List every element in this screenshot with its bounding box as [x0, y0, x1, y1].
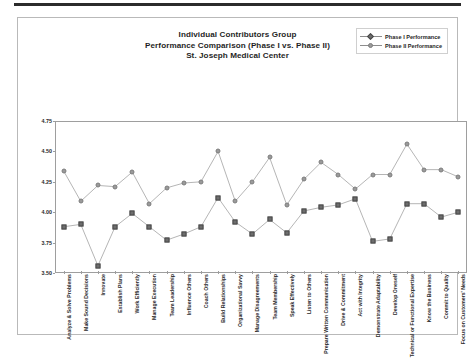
- data-point-marker: [336, 202, 341, 207]
- x-axis-labels: Analyze & Solve ProblemsMake Sound Decis…: [55, 274, 467, 350]
- page-bottom-ghost-text: [24, 344, 454, 358]
- x-axis-tick-mark: [218, 271, 219, 274]
- x-axis-tick-label: Develop Oneself: [392, 274, 398, 315]
- data-point-marker: [301, 177, 306, 182]
- legend-item-phase-ii[interactable]: Phase II Performance: [360, 41, 442, 50]
- x-axis-tick-mark: [132, 271, 133, 274]
- data-point-marker: [130, 170, 135, 175]
- x-axis-tick-label: Listen to Others: [306, 274, 312, 314]
- x-axis-tick-mark: [235, 271, 236, 274]
- legend-label-phase-ii: Phase II Performance: [382, 43, 442, 49]
- x-axis-tick-label: Manage Disagreements: [254, 274, 260, 332]
- data-point-marker: [198, 179, 203, 184]
- x-axis-tick-mark: [355, 271, 356, 274]
- data-point-marker: [250, 179, 255, 184]
- x-axis-tick-mark: [441, 271, 442, 274]
- x-axis-tick-mark: [304, 271, 305, 274]
- y-axis-tick-label: 4.75: [42, 118, 53, 124]
- x-axis-tick-label: Coach Others: [203, 274, 209, 308]
- y-axis-tick-label: 3.75: [42, 240, 53, 246]
- x-axis-tick-label: Make Sound Decisions: [83, 274, 89, 331]
- data-point-marker: [422, 167, 427, 172]
- x-axis-tick-mark: [373, 271, 374, 274]
- x-axis-tick-mark: [201, 271, 202, 274]
- data-point-marker: [439, 215, 444, 220]
- x-axis-tick-mark: [149, 271, 150, 274]
- data-point-marker: [353, 196, 358, 201]
- data-point-marker: [319, 205, 324, 210]
- data-point-marker: [181, 181, 186, 186]
- legend-label-phase-i: Phase I Performance: [382, 34, 440, 40]
- data-point-marker: [439, 167, 444, 172]
- data-point-marker: [130, 211, 135, 216]
- x-axis-tick-label: Demonstrate Adaptability: [375, 274, 381, 337]
- x-axis-tick-label: Act with Integrity: [357, 274, 363, 316]
- data-point-marker: [456, 174, 461, 179]
- data-point-marker: [61, 168, 66, 173]
- x-axis-tick-mark: [424, 271, 425, 274]
- x-axis-tick-label: Manage Execution: [151, 274, 157, 320]
- x-axis-tick-mark: [407, 271, 408, 274]
- data-point-marker: [233, 199, 238, 204]
- data-point-marker: [267, 155, 272, 160]
- plot-area: 4.754.504.254.003.753.50: [55, 121, 467, 273]
- data-point-marker: [422, 201, 427, 206]
- x-axis-tick-label: Organizational Savvy: [237, 274, 243, 327]
- x-axis-tick-label: Team Membership: [272, 274, 278, 319]
- x-axis-tick-label: Speak Effectively: [289, 274, 295, 317]
- y-axis-tick-label: 4.00: [42, 209, 53, 215]
- data-point-marker: [301, 208, 306, 213]
- data-point-marker: [147, 201, 152, 206]
- data-point-marker: [147, 224, 152, 229]
- x-axis-tick-label: Innovate: [100, 274, 106, 296]
- legend-marker-diamond-icon: [360, 32, 382, 41]
- data-point-marker: [250, 232, 255, 237]
- data-point-marker: [78, 222, 83, 227]
- data-point-marker: [164, 185, 169, 190]
- x-axis-tick-mark: [184, 271, 185, 274]
- data-point-marker: [216, 149, 221, 154]
- legend-item-phase-i[interactable]: Phase I Performance: [360, 32, 442, 41]
- x-axis-tick-label: Commit to Quality: [443, 274, 449, 319]
- data-point-marker: [95, 183, 100, 188]
- chart-frame: Individual Contributors Group Performanc…: [17, 17, 458, 335]
- x-axis-tick-label: Work Efficiently: [134, 274, 140, 313]
- x-axis-tick-mark: [338, 271, 339, 274]
- chart-legend: Phase I Performance Phase II Performance: [356, 28, 448, 54]
- x-axis-tick-label: Prepare Written Communication: [323, 274, 329, 354]
- data-point-marker: [198, 224, 203, 229]
- y-axis-tick-label: 4.25: [42, 179, 53, 185]
- data-point-marker: [113, 224, 118, 229]
- data-point-marker: [284, 202, 289, 207]
- data-point-marker: [113, 184, 118, 189]
- series-line: [64, 144, 459, 205]
- series-line: [64, 198, 459, 266]
- data-point-marker: [336, 172, 341, 177]
- x-axis-tick-label: Establish Plans: [117, 274, 123, 313]
- y-axis-tick-label: 4.50: [42, 148, 53, 154]
- legend-marker-circle-icon: [360, 41, 382, 50]
- data-point-marker: [78, 199, 83, 204]
- data-point-marker: [61, 224, 66, 229]
- data-point-marker: [267, 217, 272, 222]
- data-point-marker: [181, 232, 186, 237]
- x-axis-tick-mark: [321, 271, 322, 274]
- data-point-marker: [319, 160, 324, 165]
- x-axis-tick-mark: [115, 271, 116, 274]
- x-axis-tick-mark: [64, 271, 65, 274]
- x-axis-tick-mark: [270, 271, 271, 274]
- x-axis-tick-mark: [252, 271, 253, 274]
- data-point-marker: [456, 210, 461, 215]
- x-axis-tick-label: Know the Business: [426, 274, 432, 322]
- x-axis-tick-mark: [167, 271, 168, 274]
- x-axis-tick-label: Build Relationships: [220, 274, 226, 323]
- x-axis-tick-mark: [98, 271, 99, 274]
- data-point-marker: [164, 238, 169, 243]
- x-axis-tick-label: Influence Others: [186, 274, 192, 315]
- data-point-marker: [370, 239, 375, 244]
- data-point-marker: [387, 172, 392, 177]
- data-point-marker: [404, 142, 409, 147]
- data-point-marker: [233, 219, 238, 224]
- data-point-marker: [216, 195, 221, 200]
- x-axis-tick-label: Drive & Commitment: [340, 274, 346, 326]
